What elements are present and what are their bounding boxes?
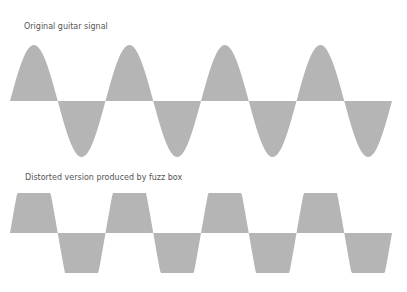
distorted-clipped-wave bbox=[10, 193, 392, 273]
waveforms bbox=[0, 0, 407, 292]
original-sine-wave bbox=[10, 45, 392, 157]
